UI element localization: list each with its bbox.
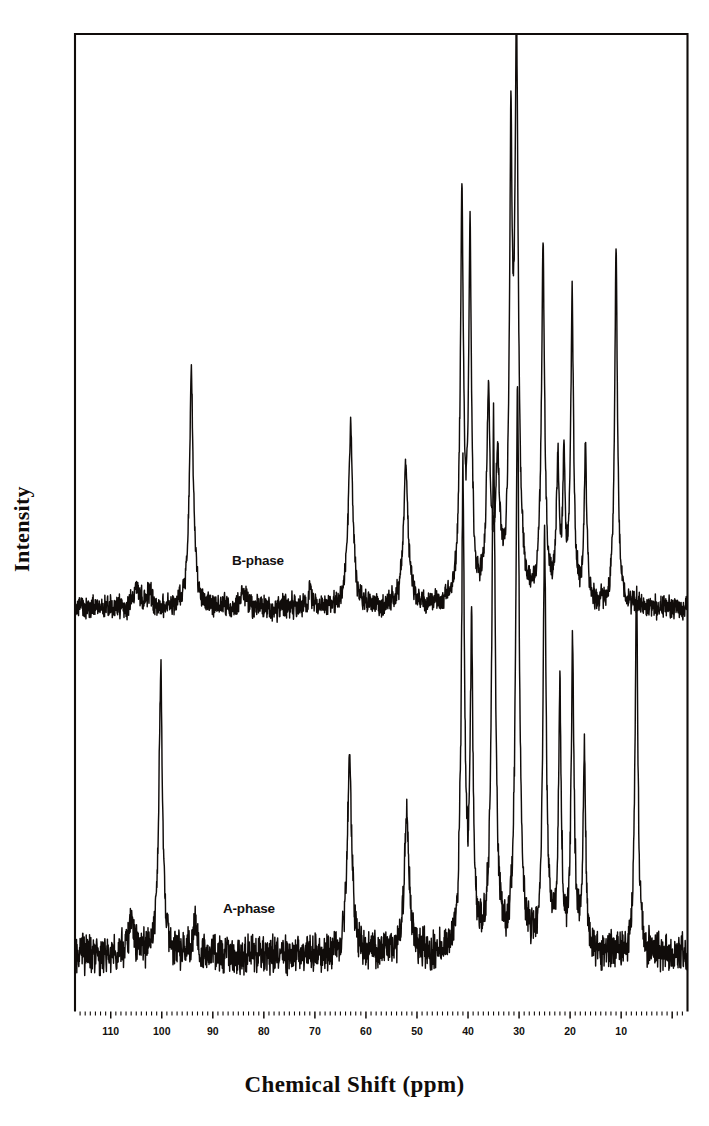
trace-label-a-phase: A-phase <box>223 901 275 916</box>
x-axis-tick-label: 110 <box>102 1025 119 1037</box>
x-axis-tick-label: 100 <box>153 1025 171 1037</box>
x-axis-tick-label: 90 <box>207 1025 219 1037</box>
x-axis-tick-label: 70 <box>309 1025 321 1037</box>
x-axis-tick-label: 10 <box>615 1025 627 1037</box>
x-axis-tick-label: 50 <box>411 1025 423 1037</box>
nmr-spectrum-figure: 110100908070605040302010 <box>0 0 709 1126</box>
x-axis-tick-label: 30 <box>513 1025 525 1037</box>
x-axis-title: Chemical Shift (ppm) <box>0 1072 709 1098</box>
x-axis-tick-label: 20 <box>564 1025 576 1037</box>
y-axis-title: Intensity <box>9 444 35 614</box>
x-axis-tick-label: 40 <box>462 1025 474 1037</box>
trace-label-b-phase: B-phase <box>232 553 284 568</box>
x-axis-tick-label: 80 <box>258 1025 270 1037</box>
x-axis-tick-label: 60 <box>360 1025 372 1037</box>
